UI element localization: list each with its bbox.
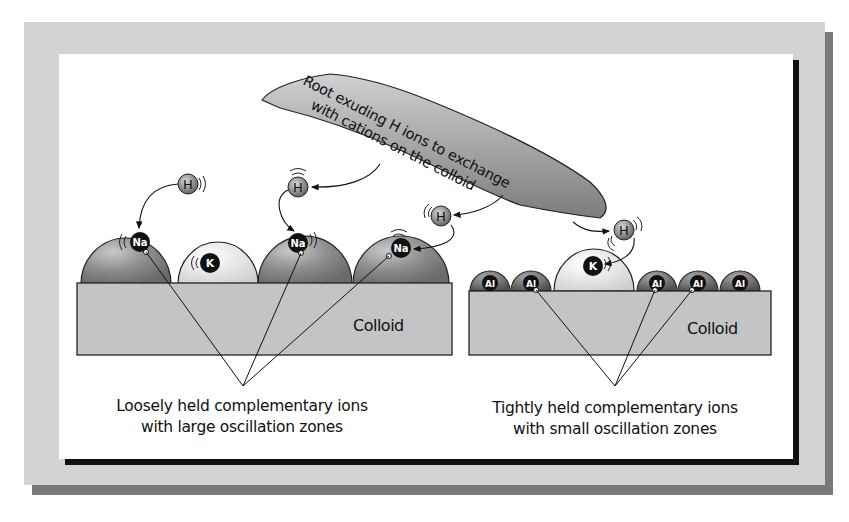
svg-text:K: K — [206, 257, 215, 270]
caption-right: Tightly held complementary ions with sma… — [455, 398, 775, 440]
na-ion: Na — [288, 233, 308, 253]
h-ion: H — [288, 177, 308, 197]
cation-exchange-diagram: Root exuding H ions to exchange with cat… — [0, 0, 849, 522]
svg-text:Al: Al — [735, 279, 745, 289]
caption-left: Loosely held complementary ions with lar… — [82, 396, 402, 438]
svg-text:Na: Na — [290, 238, 305, 249]
caption-right-line1: Tightly held complementary ions — [455, 398, 775, 419]
h-ion: H — [614, 220, 634, 240]
svg-text:H: H — [293, 180, 303, 195]
na-ion: Na — [391, 238, 411, 258]
caption-left-line2: with large oscillation zones — [82, 417, 402, 438]
caption-right-line2: with small oscillation zones — [455, 419, 775, 440]
h-ion: H — [431, 206, 451, 226]
colloid-label-left: Colloid — [353, 316, 404, 335]
svg-text:H: H — [619, 223, 629, 238]
caption-left-line1: Loosely held complementary ions — [82, 396, 402, 417]
root: Root exuding H ions to exchange with cat… — [262, 72, 606, 218]
al-ion: Al — [482, 275, 498, 291]
svg-text:H: H — [436, 209, 446, 224]
na-ion: Na — [130, 232, 150, 252]
svg-text:Na: Na — [393, 243, 408, 254]
svg-text:Al: Al — [693, 279, 703, 289]
right-colloid: Colloid Al Al K Al Al Al — [469, 249, 771, 386]
svg-text:K: K — [589, 260, 598, 273]
k-ion: K — [583, 256, 603, 276]
svg-text:H: H — [183, 177, 193, 192]
colloid-label-right: Colloid — [687, 319, 738, 338]
left-colloid: Colloid Na K Na Na — [77, 230, 452, 387]
na-ion-sphere — [81, 238, 171, 284]
h-ion: H — [178, 174, 198, 194]
svg-text:Na: Na — [132, 237, 147, 248]
svg-text:Al: Al — [485, 279, 495, 289]
k-ion: K — [200, 253, 220, 273]
al-ion: Al — [732, 275, 748, 291]
